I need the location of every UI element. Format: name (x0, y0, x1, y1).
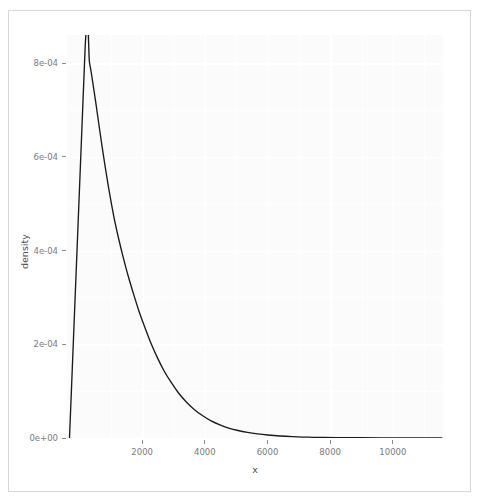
x-axis-tick-label: 8000 (300, 447, 360, 457)
density-plot-figure: 0e+002e-044e-046e-048e-04 density 200040… (0, 0, 481, 502)
x-axis-tick-label: 6000 (238, 447, 298, 457)
x-axis-tick-label: 2000 (112, 447, 172, 457)
x-axis-title: x (67, 464, 443, 476)
x-axis-tick-label: 4000 (175, 447, 235, 457)
x-axis-tick-label: 10000 (363, 447, 423, 457)
x-axis-tick-labels: 200040006000800010000 (0, 0, 481, 502)
